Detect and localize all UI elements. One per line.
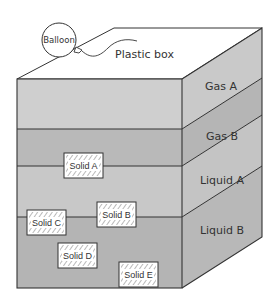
solid-a-label: Solid A (69, 161, 97, 171)
label-liquid-a: Liquid A (200, 174, 245, 187)
solid-e: Solid E (119, 262, 158, 287)
solid-c-label: Solid C (32, 218, 62, 228)
solid-b: Solid B (97, 202, 136, 227)
label-liquid-b: Liquid B (200, 224, 244, 237)
plastic-box-label: Plastic box (115, 48, 174, 61)
solid-d-label: Solid D (63, 251, 93, 261)
label-gas-b: Gas B (206, 130, 238, 143)
density-layers-diagram: Gas A Gas B Liquid A Liquid B Balloon Pl… (0, 0, 275, 301)
label-gas-a: Gas A (205, 80, 237, 93)
solid-e-label: Solid E (124, 270, 153, 280)
solid-d: Solid D (58, 243, 97, 268)
front-gas-a-layer (17, 79, 182, 129)
solid-b-label: Solid B (102, 210, 131, 220)
balloon-label: Balloon (43, 35, 75, 45)
solid-c: Solid C (27, 210, 66, 235)
solid-a: Solid A (64, 153, 103, 178)
